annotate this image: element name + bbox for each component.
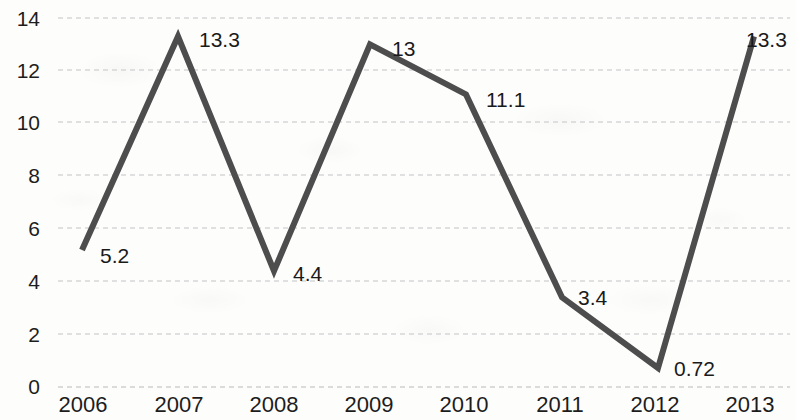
x-tick-label-2010: 2010: [419, 394, 509, 415]
y-tick-label-0: 0: [6, 376, 40, 397]
line-chart: 14 12 10 8 6 4 2 0 2006 2007 2008 2009 2…: [0, 0, 796, 420]
data-label-2008: 4.4: [293, 263, 322, 284]
data-label-2011: 3.4: [578, 287, 607, 308]
x-tick-label-2008: 2008: [229, 394, 319, 415]
x-tick-label-2009: 2009: [324, 394, 414, 415]
y-tick-label-2: 2: [6, 324, 40, 345]
y-tick-label-12: 12: [6, 60, 40, 81]
data-label-2006: 5.2: [100, 245, 129, 266]
data-label-2012: 0.72: [674, 358, 715, 379]
y-tick-label-14: 14: [6, 8, 40, 29]
x-tick-label-2007: 2007: [134, 394, 224, 415]
x-tick-label-2013: 2013: [705, 394, 795, 415]
data-label-2007: 13.3: [199, 29, 240, 50]
x-tick-label-2011: 2011: [515, 394, 605, 415]
data-series-line: [82, 36, 754, 368]
y-tick-label-4: 4: [6, 271, 40, 292]
y-tick-label-8: 8: [6, 165, 40, 186]
data-label-2010: 11.1: [486, 89, 525, 110]
x-tick-label-2006: 2006: [38, 394, 128, 415]
y-tick-label-10: 10: [6, 112, 40, 133]
data-label-2013: 13.3: [746, 29, 787, 50]
data-label-2009: 13: [392, 38, 415, 59]
x-tick-label-2012: 2012: [610, 394, 700, 415]
y-tick-label-6: 6: [6, 218, 40, 239]
